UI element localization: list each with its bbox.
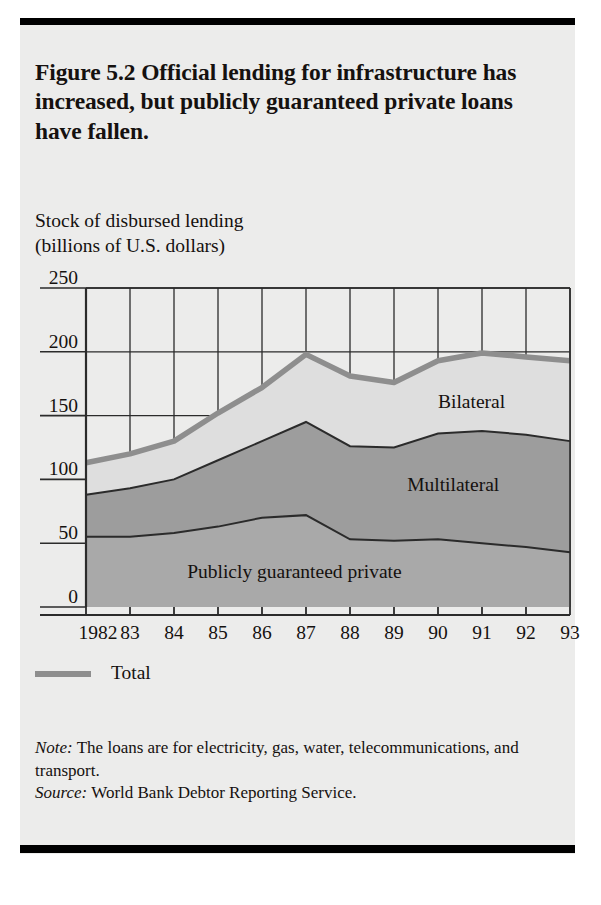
note-prefix: Note: [35, 738, 73, 757]
band-label: Publicly guaranteed private [187, 562, 401, 582]
x-axis-tick-label: 91 [462, 623, 502, 643]
x-axis-tick-label: 83 [110, 623, 150, 643]
y-axis-tick-label: 100 [18, 459, 78, 479]
y-axis-tick-label: 150 [18, 396, 78, 416]
note-text: The loans are for electricity, gas, wate… [35, 738, 519, 780]
x-axis-tick-label: 86 [242, 623, 282, 643]
x-axis-tick-label: 85 [198, 623, 238, 643]
band-label: Bilateral [438, 392, 505, 412]
y-axis-tick-label: 0 [18, 587, 78, 607]
y-axis-tick-label: 250 [18, 268, 78, 288]
total-line-swatch [35, 671, 91, 677]
figure-notes: Note: The loans are for electricity, gas… [35, 737, 540, 805]
legend-total-label: Total [111, 662, 151, 684]
y-axis-tick-label: 200 [18, 332, 78, 352]
y-axis-tick-label: 50 [18, 523, 78, 543]
x-axis-tick-label: 88 [330, 623, 370, 643]
source-line: Source: World Bank Debtor Reporting Serv… [35, 782, 540, 805]
x-axis-tick-label: 93 [550, 623, 590, 643]
note-line: Note: The loans are for electricity, gas… [35, 737, 540, 782]
x-axis-tick-label: 89 [374, 623, 414, 643]
figure-page: Figure 5.2 Official lending for infrastr… [0, 0, 601, 905]
x-axis-tick-label: 84 [154, 623, 194, 643]
source-text: World Bank Debtor Reporting Service. [87, 783, 356, 802]
source-prefix: Source: [35, 783, 87, 802]
x-axis-tick-label: 92 [506, 623, 546, 643]
x-axis-tick-label: 90 [418, 623, 458, 643]
x-axis-tick-label: 87 [286, 623, 326, 643]
band-label: Multilateral [407, 475, 499, 495]
